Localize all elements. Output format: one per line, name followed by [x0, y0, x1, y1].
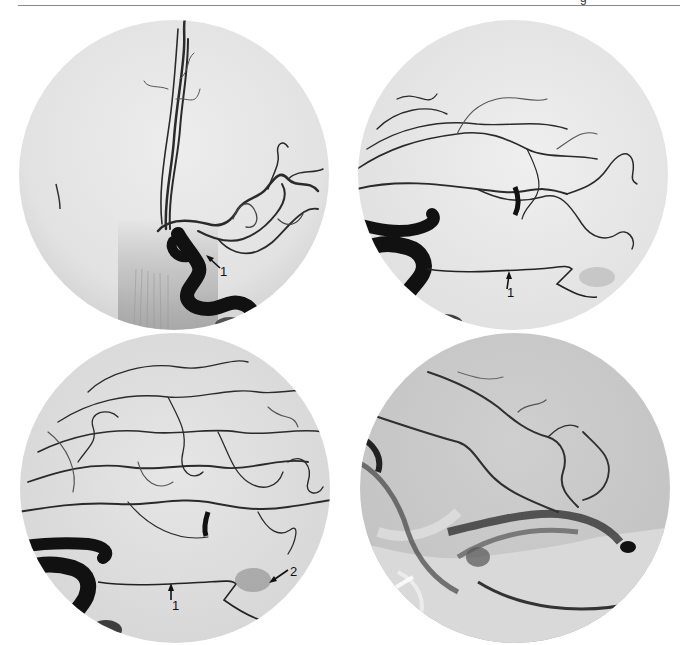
page-header-rule [18, 5, 680, 6]
angiogram-panel-top-left: 1 [18, 19, 332, 329]
page-header-fragment: g [580, 0, 587, 5]
angiogram-frontal-image: 1 [18, 19, 332, 331]
annotation-label-1: 1 [172, 598, 179, 613]
annotation-label-1: 1 [507, 285, 514, 300]
annotation-label-2: 2 [290, 564, 297, 579]
angiogram-lateral-venous-image [358, 332, 672, 644]
angiogram-panel-bottom-left: 1 2 [18, 332, 332, 642]
angiogram-panel-bottom-right [358, 332, 672, 642]
angiogram-lateral-arterial-image: 1 [357, 19, 671, 331]
annotation-label-1: 1 [220, 264, 227, 279]
angiogram-panel-top-right: 1 [357, 19, 671, 329]
angiogram-lateral-late-arterial-image: 1 2 [18, 332, 332, 644]
